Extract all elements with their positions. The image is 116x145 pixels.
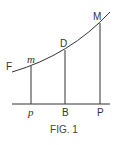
label-D: D xyxy=(60,38,67,49)
label-p: p xyxy=(27,106,34,118)
label-m: m xyxy=(27,53,35,65)
label-F: F xyxy=(6,61,12,72)
label-M: M xyxy=(93,11,101,22)
figure-caption: FIG. 1 xyxy=(50,124,78,135)
label-P: P xyxy=(97,107,104,118)
figure-diagram: F m D M p B P FIG. 1 xyxy=(0,0,116,145)
label-B: B xyxy=(62,107,69,118)
